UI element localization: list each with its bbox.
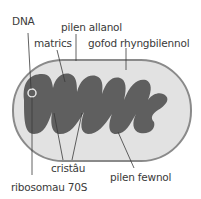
label-dna: DNA [12,16,35,27]
label-ribosomes: ribosomau 70S [11,182,87,193]
label-outer-membrane: pilen allanol [61,22,122,33]
label-matrix: matrics [34,38,72,49]
label-inner-membrane: pilen fewnol [110,172,171,183]
mitochondrion-diagram: DNA pilen allanol matrics gofod rhyngbil… [0,0,201,199]
label-cristae: cristâu [51,163,85,174]
label-intermembrane-space: gofod rhyngbilennol [88,38,189,49]
matrix [24,74,168,134]
